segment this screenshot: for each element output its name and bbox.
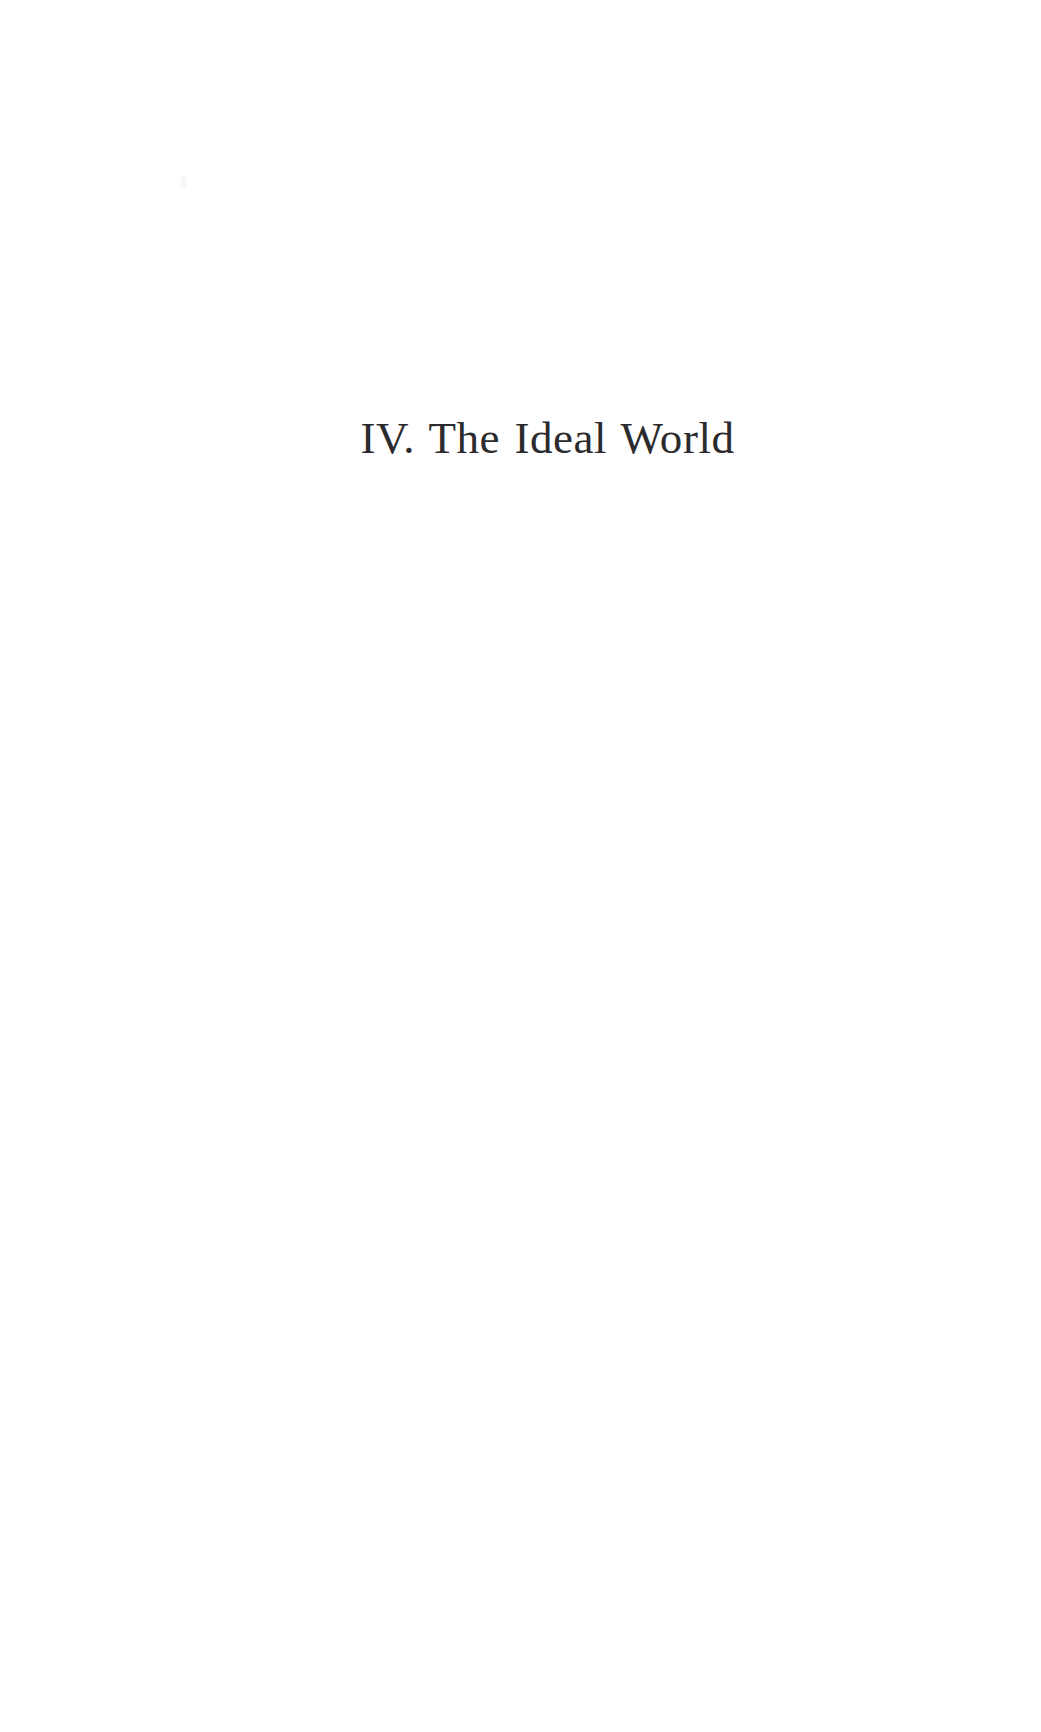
blank-area-above-heading [0, 0, 1041, 412]
page-title: IV.The Ideal World [0, 412, 1041, 465]
document-page: IV.The Ideal World [0, 0, 1041, 1732]
part-number: IV. [360, 413, 415, 463]
scan-speck-artifact [181, 176, 186, 188]
blank-area-below-heading [0, 470, 1041, 1732]
part-title: The Ideal World [429, 413, 735, 463]
